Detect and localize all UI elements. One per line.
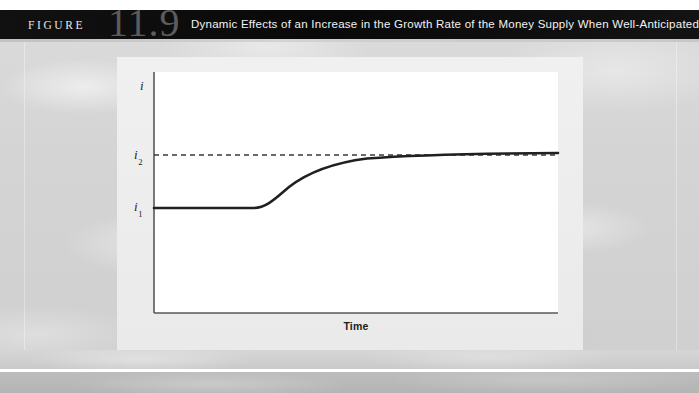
y-tick-i2-subscript: 2 [138,157,142,167]
y-axis-title: i [140,79,144,92]
y-tick-i1-subscript: 1 [138,209,142,219]
bottom-gray-band [0,372,699,393]
figure-word-label: FIGURE [28,19,85,31]
interest-rate-curve [154,153,558,208]
y-tick-label-i2: i2 [134,148,142,164]
figure-header-band: FIGURE 11.9 Dynamic Effects of an Increa… [0,10,699,39]
header-underrule [0,39,699,42]
lower-gray-gap [0,350,699,369]
figure-number: 11.9 [108,10,181,39]
y-tick-label-i1: i1 [134,200,142,216]
background-seam-left [24,42,25,350]
plot-graphics [117,57,583,350]
x-axis-title: Time [154,320,558,332]
figure-page: FIGURE 11.9 Dynamic Effects of an Increa… [0,0,699,393]
figure-caption: Dynamic Effects of an Increase in the Gr… [191,18,699,30]
background-seam-right [676,42,677,350]
top-white-margin [0,0,699,10]
